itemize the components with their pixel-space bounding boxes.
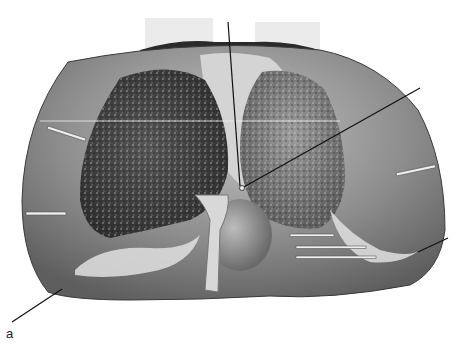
leader-line-bottom-left [12, 289, 62, 322]
panel-label: a [6, 326, 13, 341]
illustration-svg [0, 0, 456, 347]
pin-left-lower [26, 212, 66, 215]
pin-center-2 [296, 246, 366, 249]
pin-head [240, 186, 245, 191]
pin-center-3 [296, 256, 376, 259]
pin-center-1 [290, 234, 334, 237]
anatomical-figure [0, 0, 456, 347]
